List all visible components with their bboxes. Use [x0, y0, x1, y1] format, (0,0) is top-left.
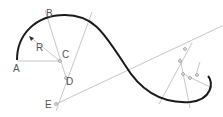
construction-lines: [17, 10, 222, 111]
point-right-3: [182, 73, 185, 76]
point-right-4: [189, 77, 192, 80]
point-right-2: [179, 60, 182, 63]
label-a: A: [13, 63, 20, 74]
radius-arrowhead-icon: [29, 36, 34, 41]
point-right-5: [196, 74, 199, 77]
label-b: B: [46, 8, 53, 19]
point-e: [55, 103, 58, 106]
point-c: [59, 60, 62, 63]
label-d: D: [66, 76, 73, 87]
construction-diagram: A B C D E R: [0, 0, 223, 117]
radius-line: [30, 37, 60, 61]
label-r: R: [36, 42, 43, 53]
label-e: E: [45, 99, 52, 110]
reverse-curve: [17, 15, 211, 102]
line-right-4: [196, 62, 200, 75]
line-e-right: [56, 26, 222, 104]
line-b-d: [45, 10, 68, 84]
point-right-1: [184, 48, 187, 51]
line-right-2: [180, 58, 190, 108]
label-c: C: [62, 49, 69, 60]
line-right-1: [159, 43, 192, 104]
